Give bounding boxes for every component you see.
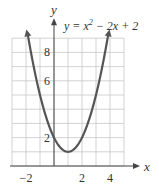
x-axis-label: x [143,159,150,174]
y-tick-label: 2 [44,131,50,145]
curve-arrow-icon [24,29,31,37]
x-tick-label: 2 [79,171,85,185]
parabola-chart: xy−224268y = x2 − 2x + 2 [0,0,159,193]
grid [12,38,124,166]
y-axis-label: y [49,2,57,17]
x-axis-arrow-icon [133,163,140,169]
equation-label: y = x2 − 2x + 2 [63,18,138,33]
x-tick-label: 4 [107,171,113,185]
y-tick-label: 6 [44,74,50,88]
y-axis-arrow-icon [51,18,57,25]
x-tick-label: −2 [20,171,33,185]
y-tick-label: 8 [44,45,50,59]
